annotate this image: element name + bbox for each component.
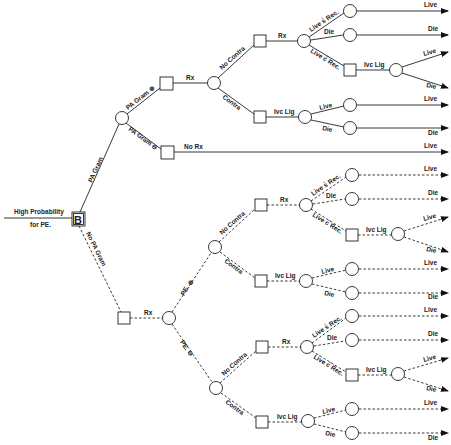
outcome-label: Die — [428, 293, 439, 300]
outcome-label: Die — [428, 129, 439, 136]
pe-neg-label: PE. ⊖ — [179, 339, 195, 358]
chance-node-ivc — [299, 111, 312, 124]
die-label: Die — [324, 289, 336, 298]
chance-node-ivc — [390, 64, 403, 77]
outcome-label: Live — [422, 47, 437, 57]
die-label: Die — [325, 429, 337, 438]
outcome-label: Live — [422, 212, 437, 222]
chance-node-contra — [208, 77, 221, 90]
rx-label: Rx — [144, 309, 153, 316]
chance-node-contra — [209, 241, 222, 254]
outcome-label: Live — [424, 165, 437, 172]
outcome-label: Live — [424, 1, 437, 8]
decision-node-contra — [256, 416, 268, 428]
outcome-label: Die — [428, 330, 439, 337]
pe-pos-label: PE. ⊕ — [179, 277, 195, 296]
decision-node-pa-pos — [160, 77, 173, 90]
decision-node-contra — [255, 275, 267, 287]
root-label-line2: for PE. — [30, 221, 51, 228]
outcome-node — [344, 29, 357, 42]
decision-node-ivc — [346, 229, 358, 241]
ivc-lig-label: Ivc Lig — [366, 226, 387, 234]
chance-node-pe — [163, 312, 176, 325]
no-pa-gram-branch: No PA Gram Rx PE. ⊕ No Contra Rx Live s̄… — [79, 165, 448, 441]
contra-label: Contra — [224, 398, 245, 416]
pa-gram-pos-label: PA Gram ⊕ — [124, 84, 156, 111]
outcome-label: Die — [426, 245, 438, 254]
contra-label: Contra — [221, 93, 242, 111]
outcome-node — [346, 263, 359, 276]
outcome-label: Die — [428, 434, 439, 441]
die-label: Die — [324, 28, 335, 35]
root-entry: High Probability for PE. B — [4, 208, 85, 228]
rx-label: Rx — [186, 74, 195, 81]
decision-node-no-contra — [254, 35, 266, 47]
live-with-rec-label: Live c̄ Rec. — [309, 46, 342, 71]
live-label: Live — [321, 265, 336, 275]
decision-node-no-pa — [118, 312, 130, 324]
pa-gram-label: PA Gram — [87, 156, 105, 184]
no-contra-label: No Contra — [218, 209, 246, 235]
die-label: Die — [326, 192, 337, 199]
chance-node-ivc — [392, 228, 405, 241]
outcome-node — [344, 122, 357, 135]
outcome-node — [346, 334, 359, 347]
chance-node-pa-gram — [116, 112, 129, 125]
outcome-label: Live — [424, 95, 437, 102]
outcome-label: Die — [428, 189, 439, 196]
pa-gram-neg-label: PA Gram ⊖ — [127, 125, 159, 151]
rx-label: Rx — [282, 338, 291, 345]
outcome-label: Die — [428, 25, 439, 32]
decision-node-ivc — [344, 64, 356, 76]
chance-node-rx — [300, 199, 313, 212]
decision-tree-diagram: High Probability for PE. B PA Gram PA Gr… — [0, 0, 451, 445]
live-label: Live — [322, 405, 337, 415]
decision-node-pa-neg — [161, 146, 174, 159]
no-pa-gram-label: No PA Gram — [85, 230, 108, 267]
ivc-lig-label: Ivc Lig — [274, 108, 295, 116]
pa-gram-branch: PA Gram PA Gram ⊕ Rx No Contra Rx Live s… — [80, 1, 448, 212]
decision-node-b-label: B — [74, 214, 82, 226]
ivc-lig-label: Ivc Lig — [275, 272, 296, 280]
chance-node-ivc — [300, 275, 313, 288]
outcome-label: Live — [424, 142, 437, 149]
outcome-label: Die — [426, 81, 438, 90]
ivc-lig-label: Ivc Lig — [364, 61, 385, 69]
outcome-label: Live — [424, 306, 437, 313]
ivc-lig-label: Ivc Lig — [366, 366, 387, 374]
chance-node-rx — [301, 341, 314, 354]
outcome-label: Live — [424, 399, 437, 406]
rx-label: Rx — [280, 196, 289, 203]
decision-node-no-contra — [256, 341, 268, 353]
chance-node-contra — [210, 382, 223, 395]
chance-node-rx — [298, 35, 311, 48]
die-label: Die — [327, 334, 338, 341]
outcome-node — [344, 5, 357, 18]
chance-node-ivc — [302, 415, 315, 428]
outcome-node — [344, 99, 357, 112]
contra-label: Contra — [223, 257, 244, 275]
outcome-node — [346, 310, 359, 323]
outcome-node — [346, 427, 359, 440]
no-rx-label: No Rx — [184, 143, 203, 150]
decision-node-ivc — [346, 369, 358, 381]
ivc-lig-label: Ivc Lig — [277, 413, 298, 421]
no-contra-label: No Contra — [220, 350, 248, 376]
no-contra-label: No Contra — [218, 44, 246, 70]
outcome-label: Die — [426, 384, 438, 393]
decision-node-no-contra — [255, 199, 267, 211]
decision-node-contra — [254, 111, 266, 123]
rx-label: Rx — [278, 32, 287, 39]
die-label: Die — [322, 124, 334, 133]
live-with-rec-label: Live c̄ Rec. — [311, 210, 344, 235]
outcome-node — [346, 287, 359, 300]
outcome-label: Live — [424, 259, 437, 266]
chance-node-ivc — [392, 368, 405, 381]
outcome-node — [346, 403, 359, 416]
root-label-line1: High Probability — [14, 208, 64, 216]
live-with-rec-label: Live c̄ Rec. — [312, 352, 345, 377]
outcome-node — [346, 193, 359, 206]
outcome-node — [346, 169, 359, 182]
